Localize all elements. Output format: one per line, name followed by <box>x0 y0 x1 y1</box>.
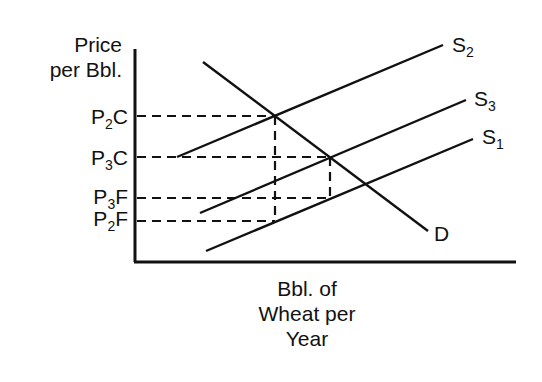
tick-p3f-base: P <box>93 185 107 208</box>
tick-p3c-sub: 3 <box>105 157 113 173</box>
curve-label-d: D <box>434 223 449 244</box>
curve-label-s2: S2 <box>452 34 474 55</box>
curve-label-s1-sub: 1 <box>496 136 504 152</box>
y-axis-label: Price per Bbl. <box>50 32 122 82</box>
y-axis-label-line2: per Bbl. <box>50 57 122 82</box>
supply-demand-diagram: Price per Bbl. P2C P3C P3F P2F S2 S3 S1 … <box>0 0 542 382</box>
supply-curve-s2 <box>177 45 443 157</box>
tick-p3c: P3C <box>91 147 128 168</box>
tick-p2c-suffix: C <box>113 105 128 128</box>
tick-p3c-base: P <box>91 146 105 169</box>
tick-p2f-suffix: F <box>115 207 128 230</box>
supply-curve-s3 <box>200 100 466 213</box>
curve-label-s2-sub: 2 <box>466 44 474 60</box>
curve-label-s3-base: S <box>474 87 488 110</box>
supply-curve-s1 <box>206 139 473 251</box>
x-axis-label-line3: Year <box>232 326 382 351</box>
curve-label-s1: S1 <box>482 126 504 147</box>
tick-p2c: P2C <box>91 106 128 127</box>
curve-label-s1-base: S <box>482 125 496 148</box>
tick-p2c-base: P <box>91 105 105 128</box>
tick-p2f-base: P <box>93 207 107 230</box>
curve-label-d-base: D <box>434 222 449 245</box>
x-axis-label-line1: Bbl. of <box>232 276 382 301</box>
x-axis-label-line2: Wheat per <box>232 301 382 326</box>
curve-label-s2-base: S <box>452 33 466 56</box>
tick-p2c-sub: 2 <box>105 116 113 132</box>
tick-p3f: P3F <box>93 186 128 207</box>
tick-p2f-sub: 2 <box>107 218 115 234</box>
y-axis-label-line1: Price <box>50 32 122 57</box>
x-axis-label: Bbl. of Wheat per Year <box>232 276 382 351</box>
curve-label-s3-sub: 3 <box>488 98 496 114</box>
tick-p2f: P2F <box>93 208 128 229</box>
tick-p3f-suffix: F <box>115 185 128 208</box>
curve-label-s3: S3 <box>474 88 496 109</box>
tick-p3c-suffix: C <box>113 146 128 169</box>
